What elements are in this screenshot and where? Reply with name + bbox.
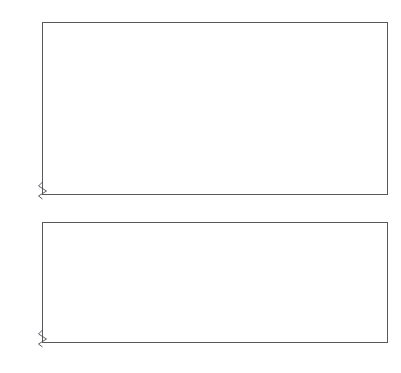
bottom-panel-frame [43,223,388,343]
top-panel [39,23,388,200]
bottom-panel [39,223,388,348]
chart-canvas [0,0,401,373]
top-panel-frame [43,23,388,195]
economic-time-series-figure [0,0,401,373]
